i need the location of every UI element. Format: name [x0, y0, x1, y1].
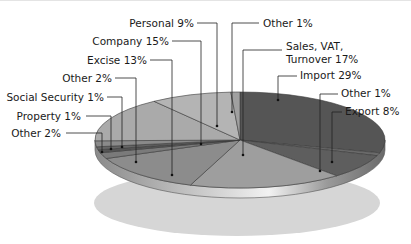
slice-label: Other 2%	[11, 127, 61, 139]
leader-dot	[216, 125, 219, 128]
pie-chart: Import 29%Other 1%Export 8%Sales, VAT,Tu…	[0, 0, 411, 244]
slice-label: Other 1%	[263, 17, 313, 29]
slice-label: Import 29%	[300, 69, 362, 81]
slice-label: Other 2%	[62, 72, 112, 84]
leader-dot	[171, 174, 174, 177]
slice-label: Excise 13%	[87, 54, 147, 66]
slice-label: Personal 9%	[129, 17, 194, 29]
slice-label: Other 1%	[341, 87, 391, 99]
leader-dot	[277, 99, 280, 102]
slice-label-line2: Turnover 17%	[285, 53, 358, 65]
leader-dot	[200, 143, 203, 146]
slice-label: Sales, VAT,	[286, 40, 343, 52]
leader-dot	[121, 146, 124, 149]
slice-label: Property 1%	[17, 110, 81, 122]
pie-slices	[95, 92, 385, 188]
slice-label: Export 8%	[345, 105, 399, 117]
leader-dot	[231, 111, 234, 114]
leader-dot	[319, 170, 322, 173]
leader-dot	[135, 161, 138, 164]
slice-label: Social Security 1%	[6, 91, 104, 103]
slice-label: Company 15%	[92, 35, 169, 47]
leader-dot	[110, 148, 113, 151]
leader-dot	[331, 161, 334, 164]
leader-dot	[242, 154, 245, 157]
leader-dot	[101, 151, 104, 154]
